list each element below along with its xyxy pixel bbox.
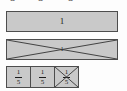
fraction-one-fifth: 1 5 xyxy=(39,69,46,86)
crossed-whole-bar-label: 1 xyxy=(7,40,117,59)
fifth-part-crossed: 1 5 xyxy=(54,66,79,88)
clipped-top-glyph-row: 5 5 5 xyxy=(0,0,127,6)
fraction-one-fifth: 1 5 xyxy=(15,69,22,86)
whole-bar-label: 1 xyxy=(7,12,117,31)
clipped-glyph: 5 xyxy=(10,0,16,3)
fraction-one-fifth: 1 5 xyxy=(63,69,70,86)
crossed-whole-bar: 1 xyxy=(6,39,118,60)
fraction-denominator: 5 xyxy=(40,79,46,86)
diagram-canvas: 5 5 5 1 1 1 5 1 5 xyxy=(0,0,127,91)
fraction-denominator: 5 xyxy=(64,79,70,86)
fifth-part: 1 5 xyxy=(6,66,31,88)
fraction-numerator: 1 xyxy=(40,69,46,76)
clipped-glyph: 5 xyxy=(68,0,74,3)
fifths-row: 1 5 1 5 1 5 xyxy=(6,66,78,88)
fifth-part: 1 5 xyxy=(30,66,55,88)
fraction-numerator: 1 xyxy=(64,69,70,76)
fraction-denominator: 5 xyxy=(16,79,22,86)
fraction-numerator: 1 xyxy=(16,69,22,76)
clipped-glyph: 5 xyxy=(38,0,44,3)
whole-bar: 1 xyxy=(6,11,118,32)
